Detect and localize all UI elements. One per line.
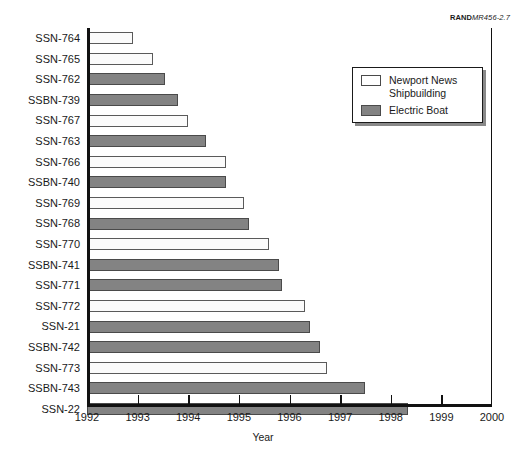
y-axis-label: SSN-764 [0,28,81,49]
bar-ssn-773[interactable] [87,362,327,374]
bar-row [87,193,492,214]
document-number: MR456-2.7 [472,13,510,22]
right-axis-line [491,28,492,407]
bar-row [87,275,492,296]
bar-ssn-764[interactable] [87,32,133,44]
bar-ssbn-741[interactable] [87,259,279,271]
bar-ssn-765[interactable] [87,53,153,65]
x-axis-tick-label: 1998 [368,411,414,423]
y-axis-label: SSBN-743 [0,378,81,399]
chart-legend: Newport News ShipbuildingElectric Boat [352,67,483,123]
x-axis-ticks [87,395,492,407]
x-axis-tick [188,395,189,407]
legend-entry[interactable]: Newport News Shipbuilding [361,74,482,99]
bar-row [87,337,492,358]
bar-ssn-769[interactable] [87,197,244,209]
bar-ssn-21[interactable] [87,321,310,333]
bar-row [87,213,492,234]
bar-row [87,255,492,276]
bar-ssn-762[interactable] [87,73,165,85]
legend-swatch-nns [361,75,381,86]
legend-entry[interactable]: Electric Boat [361,104,482,117]
x-axis-tick-label: 1997 [317,411,363,423]
bar-ssbn-743[interactable] [87,382,365,394]
x-axis-tick-label: 2000 [469,411,515,423]
bar-ssbn-742[interactable] [87,341,320,353]
x-axis-tick-labels: 199219931994199519961997199819992000 [87,411,492,427]
x-axis-tick [441,395,442,407]
y-axis-label: SSN-767 [0,110,81,131]
y-axis-label: SSN-773 [0,358,81,379]
y-axis-label: SSN-772 [0,296,81,317]
bar-ssn-767[interactable] [87,115,188,127]
x-axis-title: Year [0,431,526,443]
x-axis-tick [290,395,291,407]
x-axis-tick-label: 1999 [418,411,464,423]
bar-row [87,316,492,337]
bar-ssn-771[interactable] [87,279,282,291]
legend-label: Electric Boat [389,104,448,117]
bar-ssn-772[interactable] [87,300,305,312]
y-axis-label: SSN-21 [0,316,81,337]
y-axis-label: SSN-762 [0,69,81,90]
y-axis-label: SSN-768 [0,213,81,234]
rand-logo-text: RAND [450,13,472,22]
bar-ssn-768[interactable] [87,218,249,230]
x-axis-tick [340,395,341,407]
bar-row [87,131,492,152]
source-credit: RANDMR456-2.7 [450,13,510,22]
bar-row [87,172,492,193]
y-axis-label: SSN-766 [0,152,81,173]
x-axis-tick [391,395,392,407]
x-axis-tick-label: 1996 [267,411,313,423]
x-axis-tick-label: 1992 [64,411,110,423]
x-axis-tick-label: 1995 [216,411,262,423]
y-axis-label: SSBN-741 [0,255,81,276]
y-axis-label: SSBN-740 [0,172,81,193]
bar-row [87,358,492,379]
y-axis-labels: SSN-764SSN-765SSN-762SSBN-739SSN-767SSN-… [0,28,81,399]
bar-row [87,234,492,255]
bar-ssn-770[interactable] [87,238,269,250]
legend-label: Newport News Shipbuilding [389,74,457,99]
y-axis-label: SSN-769 [0,193,81,214]
bar-ssbn-740[interactable] [87,176,226,188]
bar-row [87,296,492,317]
bar-row [87,152,492,173]
x-axis-tick [138,395,139,407]
x-axis-tick-label: 1994 [165,411,211,423]
y-axis-label: SSN-765 [0,49,81,70]
legend-swatch-eb [361,105,381,116]
x-axis-tick [239,395,240,407]
y-axis-label: SSN-763 [0,131,81,152]
bar-row [87,28,492,49]
x-axis-tick-label: 1993 [115,411,161,423]
bar-ssn-766[interactable] [87,156,226,168]
bar-ssn-763[interactable] [87,135,206,147]
bar-ssbn-739[interactable] [87,94,178,106]
y-axis-label: SSN-771 [0,275,81,296]
y-axis-label: SSBN-739 [0,90,81,111]
y-axis-label: SSN-770 [0,234,81,255]
y-axis-label: SSBN-742 [0,337,81,358]
y-axis-line [87,28,90,407]
